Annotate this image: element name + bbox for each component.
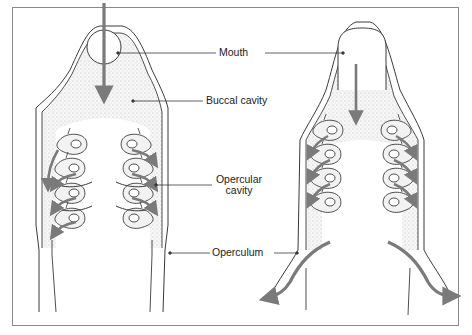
water-outflow-arrow-left <box>268 242 330 298</box>
label-buccal-cavity: Buccal cavity <box>205 95 268 106</box>
label-operculum: Operculum <box>211 247 264 258</box>
label-mouth: Mouth <box>218 47 249 58</box>
left-fish <box>36 3 168 312</box>
water-outflow-arrow-right <box>388 242 452 296</box>
label-opercular-cavity: Opercular cavity <box>212 174 266 196</box>
right-mouth-closed <box>338 28 386 90</box>
right-fish <box>268 22 452 315</box>
